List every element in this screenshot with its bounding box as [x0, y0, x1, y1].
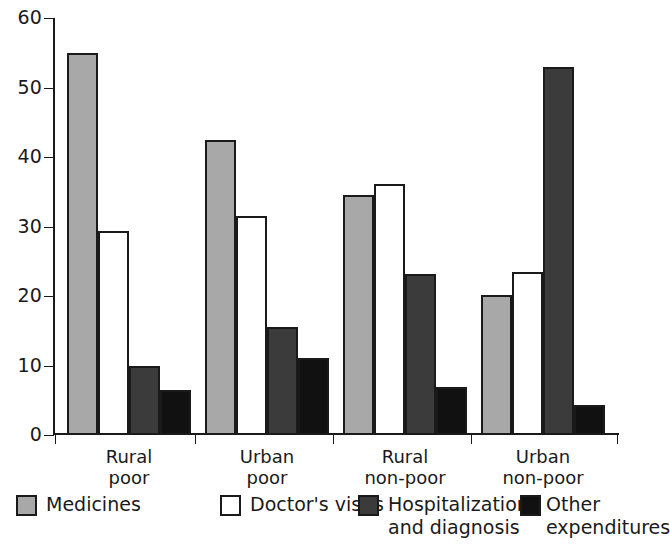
- y-axis-tick-label-text: 20: [2, 286, 42, 305]
- bar: [205, 140, 236, 435]
- x-axis-tick: [471, 435, 472, 444]
- legend-label: Hospitalization and diagnosis: [388, 493, 529, 539]
- legend-label: Medicines: [46, 493, 141, 516]
- legend-swatch: [358, 495, 379, 516]
- bar-group: [343, 18, 467, 435]
- bar: [512, 272, 543, 435]
- bar-group: [205, 18, 329, 435]
- bar: [98, 231, 129, 435]
- bar-group: [481, 18, 605, 435]
- bar: [405, 274, 436, 435]
- y-axis-tick-label-text: 60: [2, 8, 42, 27]
- legend-item[interactable]: Hospitalization and diagnosis: [358, 493, 529, 539]
- bar: [374, 184, 405, 435]
- legend-label: Other expenditures: [546, 493, 670, 539]
- bar: [343, 195, 374, 435]
- y-axis-tick-label-text: 50: [2, 78, 42, 97]
- x-axis-label-line: non-poor: [461, 467, 625, 488]
- legend-item[interactable]: Medicines: [16, 493, 141, 516]
- y-axis-tick-label: 10: [0, 356, 42, 375]
- bar: [543, 67, 574, 435]
- legend-swatch: [220, 495, 241, 516]
- x-axis-tick: [55, 435, 56, 444]
- bar: [574, 405, 605, 435]
- y-axis-tick-label: 0: [0, 425, 42, 444]
- plot-area: [53, 18, 619, 435]
- bar: [67, 53, 98, 435]
- x-axis-label-line: Urban: [461, 446, 625, 467]
- bar: [481, 295, 512, 435]
- y-axis-tick-label: 40: [0, 147, 42, 166]
- y-axis-tick-label-text: 10: [2, 356, 42, 375]
- y-axis-tick-label: 20: [0, 286, 42, 305]
- bar: [129, 366, 160, 435]
- chart-legend: MedicinesDoctor's visitsHospitalization …: [8, 493, 634, 543]
- legend-item[interactable]: Other expenditures: [520, 493, 670, 539]
- bar: [436, 387, 467, 435]
- bar: [267, 327, 298, 435]
- y-axis-tick-label: 60: [0, 8, 42, 27]
- y-axis-tick-label-text: 40: [2, 147, 42, 166]
- x-axis-tick: [333, 435, 334, 444]
- legend-swatch: [16, 495, 37, 516]
- bar: [298, 358, 329, 435]
- legend-swatch: [520, 495, 541, 516]
- y-axis-tick: [44, 435, 54, 436]
- bar: [160, 390, 191, 435]
- y-axis-tick-label-text: 0: [2, 425, 42, 444]
- y-axis-tick-label: 30: [0, 217, 42, 236]
- y-axis-tick-label-text: 30: [2, 217, 42, 236]
- bar-group: [67, 18, 191, 435]
- x-axis-tick: [195, 435, 196, 444]
- x-axis-tick: [617, 435, 618, 444]
- bar: [236, 216, 267, 435]
- y-axis-tick-label: 50: [0, 78, 42, 97]
- x-axis-label: Urbannon-poor: [461, 446, 625, 488]
